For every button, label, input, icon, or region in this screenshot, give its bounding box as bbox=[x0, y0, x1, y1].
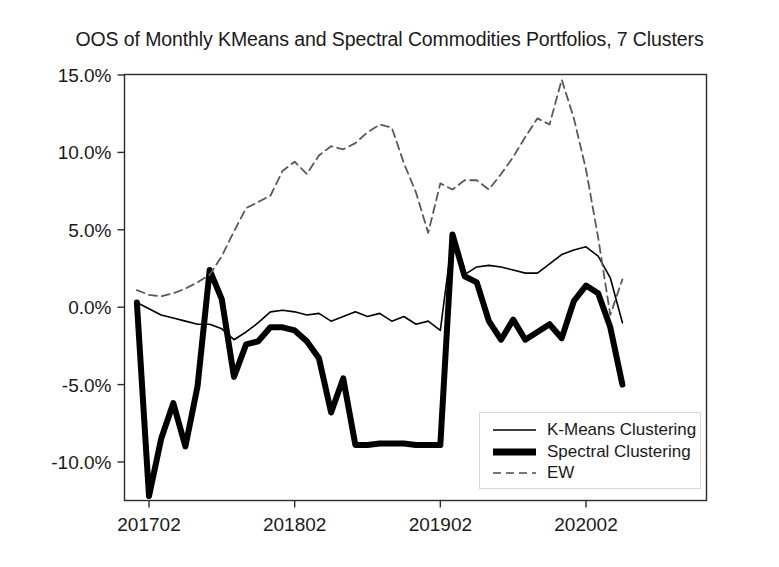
y-tick-label: 5.0% bbox=[68, 220, 111, 241]
legend-label-ew: EW bbox=[547, 463, 574, 482]
x-axis-ticks: 201702201802201902202002 bbox=[117, 501, 617, 535]
plot-area: 15.0%10.0%5.0%0.0%-5.0%-10.0% 2017022018… bbox=[0, 0, 779, 567]
y-tick-label: 15.0% bbox=[58, 65, 112, 86]
chart-figure: OOS of Monthly KMeans and Spectral Commo… bbox=[0, 0, 779, 567]
y-tick-label: -5.0% bbox=[62, 375, 112, 396]
x-tick-label: 201702 bbox=[117, 514, 180, 535]
x-tick-label: 201802 bbox=[263, 514, 326, 535]
y-axis-ticks: 15.0%10.0%5.0%0.0%-5.0%-10.0% bbox=[51, 65, 124, 473]
chart-legend: K-Means Clustering Spectral Clustering E… bbox=[480, 413, 701, 489]
legend-label-kmeans: K-Means Clustering bbox=[547, 420, 696, 439]
y-tick-label: 10.0% bbox=[58, 142, 112, 163]
legend-label-spectral: Spectral Clustering bbox=[547, 442, 691, 461]
x-tick-label: 202002 bbox=[554, 514, 617, 535]
y-tick-label: 0.0% bbox=[68, 297, 111, 318]
y-tick-label: -10.0% bbox=[51, 452, 111, 473]
x-tick-label: 201902 bbox=[409, 514, 472, 535]
